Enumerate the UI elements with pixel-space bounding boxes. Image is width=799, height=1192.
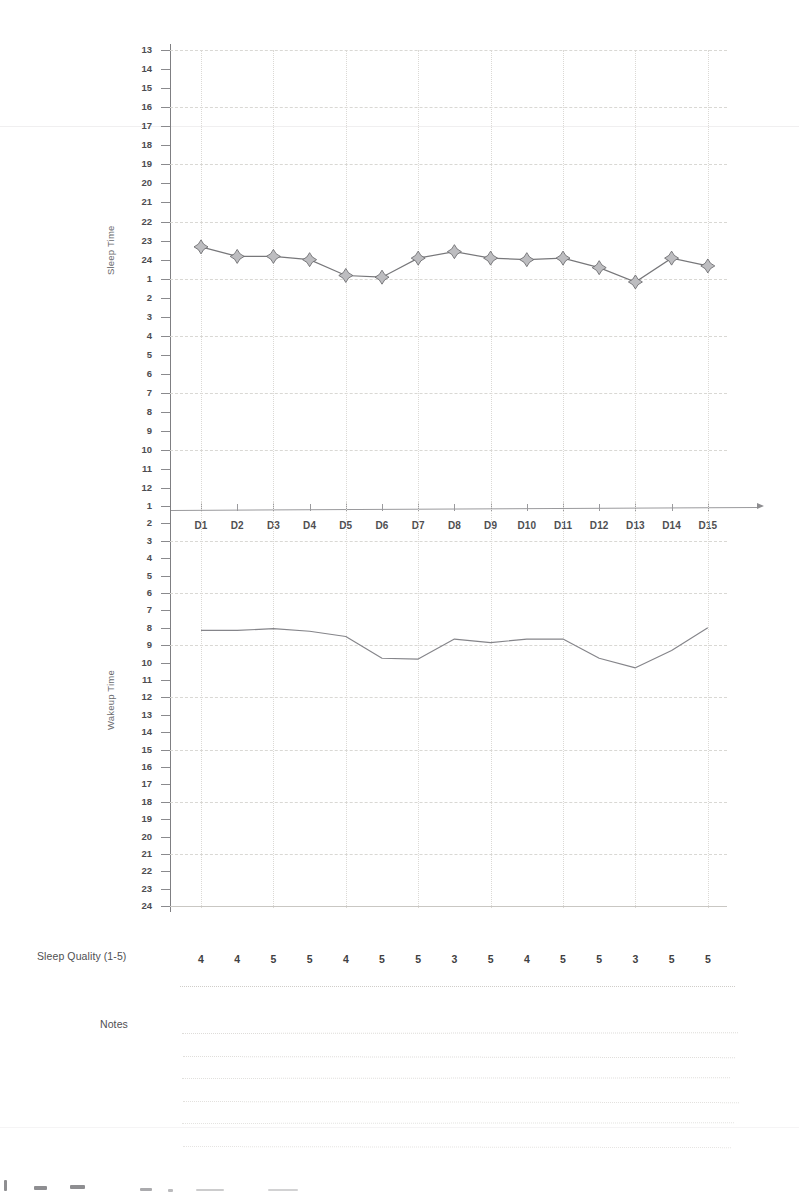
page-edge-mark	[268, 1189, 298, 1191]
sleep-quality-value: 4	[222, 953, 252, 965]
sleep-quality-value: 5	[258, 953, 288, 965]
sleep-quality-value: 5	[367, 953, 397, 965]
sleep-quality-value: 5	[476, 953, 506, 965]
notes-label: Notes	[100, 1018, 128, 1030]
sleep-log-page: Sleep Time 13141516171819202122232412345…	[0, 0, 799, 1192]
sleep-quality-value: 5	[548, 953, 578, 965]
sleep-quality-label: Sleep Quality (1-5)	[37, 950, 126, 962]
sleep-quality-value: 4	[186, 953, 216, 965]
sleep-quality-value: 3	[439, 953, 469, 965]
page-edge-mark	[196, 1189, 224, 1191]
sleep-quality-value: 3	[620, 953, 650, 965]
page-edge-mark	[70, 1185, 85, 1189]
sleep-quality-value: 5	[693, 953, 723, 965]
sleep-quality-value: 4	[512, 953, 542, 965]
sleep-quality-value: 5	[657, 953, 687, 965]
wakeup-time-series	[0, 0, 799, 1192]
sleep-quality-rule	[180, 986, 735, 988]
wakeup-time-line	[201, 628, 708, 668]
sleep-quality-value: 5	[295, 953, 325, 965]
page-edge-mark	[4, 1180, 7, 1191]
page-edge-mark	[140, 1188, 152, 1191]
sleep-quality-value: 5	[403, 953, 433, 965]
sleep-quality-value: 5	[584, 953, 614, 965]
page-edge-mark	[34, 1186, 47, 1190]
sleep-quality-value: 4	[331, 953, 361, 965]
